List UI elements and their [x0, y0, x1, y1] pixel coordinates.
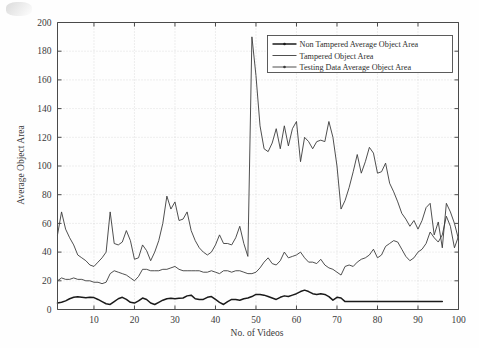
line-chart-canvas: 0204060801001201401601802001020304050607… [0, 0, 479, 348]
y-tick-label: 60 [42, 219, 52, 229]
x-tick-label: 20 [130, 315, 140, 325]
legend-item-label: Non Tampered Average Object Area [300, 40, 419, 49]
x-tick-label: 70 [332, 315, 342, 325]
y-tick-label: 140 [37, 104, 52, 114]
chart-figure: 0204060801001201401601802001020304050607… [0, 0, 479, 348]
y-tick-label: 200 [37, 18, 52, 28]
legend-item-label: Tampered Object Area [300, 52, 374, 61]
y-tick-label: 100 [37, 161, 52, 171]
x-tick-label: 40 [211, 315, 221, 325]
y-tick-label: 20 [42, 276, 52, 286]
series-line-0 [58, 290, 443, 304]
y-tick-label: 160 [37, 75, 52, 85]
series-group [58, 37, 459, 305]
x-tick-label: 10 [89, 315, 99, 325]
chart-legend[interactable]: Non Tampered Average Object AreaTampered… [268, 36, 453, 73]
x-tick-label: 90 [413, 315, 423, 325]
x-tick-label: 80 [373, 315, 383, 325]
y-tick-label: 80 [42, 190, 52, 200]
x-axis-title: No. of Videos [231, 328, 284, 338]
y-tick-label: 120 [37, 133, 52, 143]
x-tick-label: 30 [170, 315, 180, 325]
x-tick-label: 60 [292, 315, 302, 325]
x-tick-label: 50 [251, 315, 261, 325]
y-axis-title: Average Object Area [16, 124, 26, 204]
series-line-2 [58, 216, 459, 283]
legend-item-label: Testing Data Average Object Area [300, 63, 412, 72]
y-tick-label: 180 [37, 46, 52, 56]
y-tick-label: 40 [42, 247, 52, 257]
x-tick-label: 100 [451, 315, 466, 325]
y-tick-label: 0 [47, 305, 52, 315]
